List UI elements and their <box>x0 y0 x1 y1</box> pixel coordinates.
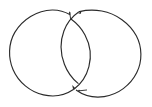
figure-canvas: Two overlapping circles <box>0 0 152 107</box>
top-break-terminal-dot <box>69 12 71 14</box>
right-circle-outline <box>76 10 141 97</box>
bottom-left-arc-nib <box>72 85 75 89</box>
right-circle-bottom-terminal <box>79 90 86 91</box>
bottom-break-terminal-dot <box>78 90 80 92</box>
two-circles-diagram <box>0 0 152 107</box>
left-circle-outline <box>10 10 74 96</box>
